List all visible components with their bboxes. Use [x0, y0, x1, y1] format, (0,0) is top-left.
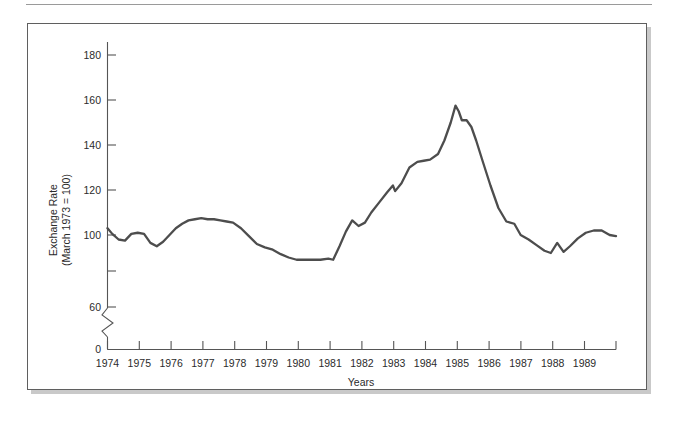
line-chart: 180 160 140 120 100 60 0 Exchange Rate (… [28, 24, 646, 389]
x-tick-label-1984: 1984 [414, 357, 438, 369]
x-tick-label-1976: 1976 [159, 357, 183, 369]
y-tick-label-0: 0 [95, 343, 101, 355]
x-tick-label-1986: 1986 [477, 357, 501, 369]
x-tick-label-1987: 1987 [509, 357, 533, 369]
x-tick-label-1985: 1985 [446, 357, 470, 369]
x-tick-label-1975: 1975 [128, 357, 152, 369]
y-tick-label-120: 120 [83, 184, 101, 196]
y-tick-label-60: 60 [89, 301, 101, 313]
x-tick-label-1977: 1977 [191, 357, 215, 369]
x-tick-label-1981: 1981 [318, 357, 342, 369]
y-tick-label-160: 160 [83, 94, 101, 106]
data-series-line [108, 106, 617, 260]
page-top-rule [26, 4, 652, 5]
y-tick-label-100: 100 [83, 229, 101, 241]
x-tick-label-1989: 1989 [573, 357, 597, 369]
x-tick-label-1979: 1979 [255, 357, 279, 369]
x-tick-label-1988: 1988 [541, 357, 565, 369]
x-tick-label-1983: 1983 [382, 357, 406, 369]
x-tick-label-1974: 1974 [96, 357, 120, 369]
y-axis-title-line1: Exchange Rate [47, 184, 59, 256]
x-axis-title: Years [348, 376, 374, 388]
x-tick-label-1980: 1980 [287, 357, 311, 369]
figure-frame: 180 160 140 120 100 60 0 Exchange Rate (… [27, 23, 647, 390]
x-tick-label-1982: 1982 [350, 357, 374, 369]
y-tick-label-140: 140 [83, 139, 101, 151]
y-tick-label-180: 180 [83, 49, 101, 61]
x-tick-label-1978: 1978 [223, 357, 247, 369]
y-axis-break-zigzag [102, 308, 113, 337]
y-axis-title-line2: (March 1973 = 100) [60, 174, 72, 266]
